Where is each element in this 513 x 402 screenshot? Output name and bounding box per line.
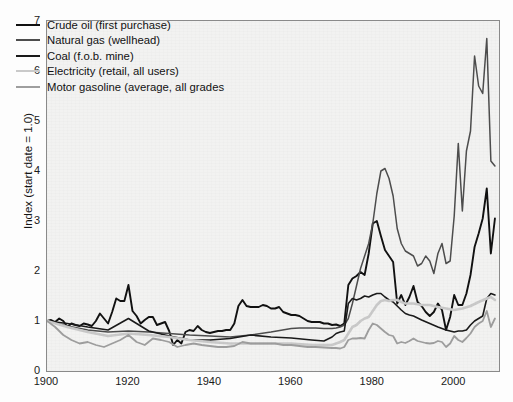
legend-item-label: Crude oil (first purchase) xyxy=(47,19,171,31)
legend-swatch-line xyxy=(16,39,40,41)
x-tick-label: 1980 xyxy=(349,376,395,387)
legend-item[interactable]: Coal (f.o.b. mine) xyxy=(16,48,224,64)
x-tick-label: 2000 xyxy=(430,376,476,387)
x-tick-label: 1940 xyxy=(186,376,232,387)
chart-figure: Index (start date = 1.0) 01234567 190019… xyxy=(0,0,513,402)
legend-item-label: Electricity (retail, all users) xyxy=(47,65,179,77)
series-line-2 xyxy=(47,294,495,342)
y-tick-label: 5 xyxy=(14,115,40,125)
x-tick-label: 1960 xyxy=(267,376,313,387)
legend-item[interactable]: Crude oil (first purchase) xyxy=(16,17,224,33)
legend-item[interactable]: Electricity (retail, all users) xyxy=(16,64,224,80)
x-tick-label: 1920 xyxy=(104,376,150,387)
legend-item[interactable]: Motor gasoline (average, all grades xyxy=(16,79,224,95)
legend-swatch-line xyxy=(16,55,40,57)
legend-item-label: Coal (f.o.b. mine) xyxy=(47,50,134,62)
legend-swatch-line xyxy=(16,86,40,88)
series-line-0 xyxy=(47,189,495,346)
y-tick-label: 3 xyxy=(14,215,40,225)
legend-item-label: Motor gasoline (average, all grades xyxy=(47,81,224,93)
legend-item-label: Natural gas (wellhead) xyxy=(47,34,160,46)
chart-legend: Crude oil (first purchase)Natural gas (w… xyxy=(16,17,224,95)
series-line-4 xyxy=(47,311,495,349)
legend-item[interactable]: Natural gas (wellhead) xyxy=(16,33,224,49)
legend-swatch-line xyxy=(16,24,40,26)
y-tick-label: 2 xyxy=(14,265,40,275)
legend-swatch-line xyxy=(16,70,40,72)
y-tick-label: 0 xyxy=(14,365,40,375)
y-tick-label: 1 xyxy=(14,315,40,325)
y-tick-label: 4 xyxy=(14,165,40,175)
x-tick-label: 1900 xyxy=(23,376,69,387)
